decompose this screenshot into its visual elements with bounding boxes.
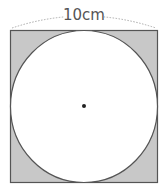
dimension-label: 10cm bbox=[63, 6, 105, 24]
square-circle-diagram: 10cm bbox=[0, 0, 168, 192]
center-dot bbox=[82, 104, 86, 108]
